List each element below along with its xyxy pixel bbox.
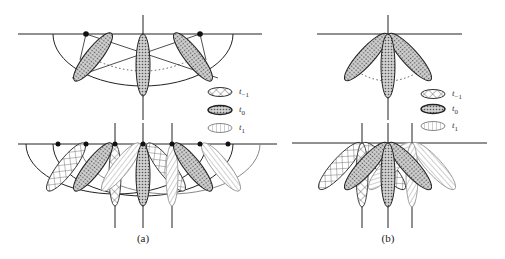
sensor-dot bbox=[83, 31, 89, 37]
legend-b-t0: t0 bbox=[452, 103, 458, 116]
panel-a-top bbox=[18, 15, 262, 120]
panel-b-bottom bbox=[292, 123, 487, 228]
caption-b: (b) bbox=[382, 232, 395, 244]
panel-b-top bbox=[317, 15, 462, 120]
legend-b-t-minus1: t−1 bbox=[452, 88, 462, 101]
lobe-center bbox=[136, 34, 150, 96]
diagram-canvas bbox=[0, 0, 505, 259]
sensor-dot bbox=[197, 31, 203, 37]
legend-a-t1: t1 bbox=[239, 122, 245, 135]
legend-a-t-minus1: t−1 bbox=[239, 86, 249, 99]
legend-b bbox=[421, 90, 445, 131]
legend-a bbox=[208, 88, 232, 133]
legend-b-t1: t1 bbox=[452, 120, 458, 133]
legend-a-t0: t0 bbox=[239, 104, 245, 117]
caption-a: (a) bbox=[137, 232, 149, 244]
panel-a-bottom bbox=[18, 123, 277, 228]
